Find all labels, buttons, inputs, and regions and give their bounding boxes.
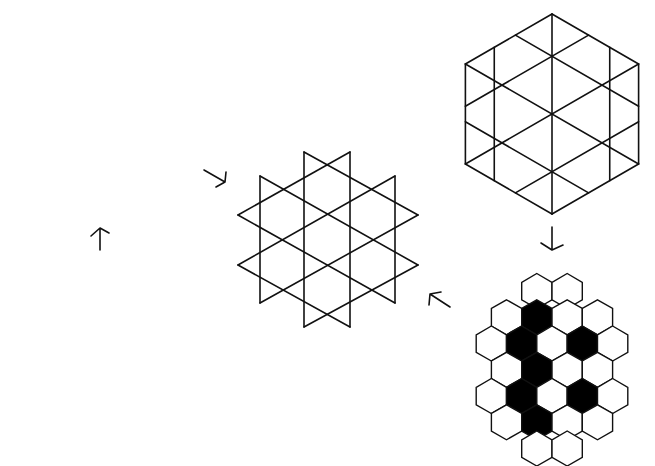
arrow-down-right-icon [204, 170, 226, 187]
arrow-down-icon [541, 227, 563, 250]
colored-honeycomb-figure [476, 274, 628, 466]
kagome-lattice-figure [238, 152, 418, 327]
arrow-up-icon [91, 228, 109, 250]
arrow-up-left-icon [429, 292, 450, 307]
triangular-lattice-figure [465, 14, 638, 214]
